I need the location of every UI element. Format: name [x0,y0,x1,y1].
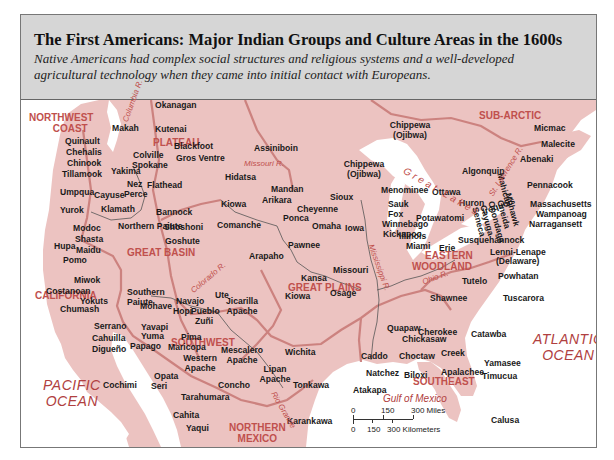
group-label: Abenaki [520,154,553,164]
region-label-line: MEXICO [229,433,286,444]
map-figure: The First Americans: Major Indian Groups… [20,14,597,448]
group-label: Hopi [173,306,192,316]
group-label: Biloxi [404,370,427,380]
group-label: Miami [406,241,430,251]
group-label: Susquehannock [458,235,524,245]
group-label: Kutenai [155,124,187,134]
group-label: Costanoan [46,286,90,296]
group-label: Iowa [345,223,364,233]
group-label: Tillamook [62,169,102,179]
map-canvas: NORTHWEST COAST PLATEAU GREAT BASIN CALI… [21,100,596,447]
group-label: Potawatomi [416,213,464,223]
group-label: Digueño [92,344,126,354]
group-label: Goshute [165,236,200,246]
group-label: Natchez [366,368,399,378]
group-label: Sauk [388,199,409,209]
group-label: Hupa [54,241,75,251]
group-label: Cochimi [103,380,137,390]
group-label: Shoshoni [164,222,203,232]
group-label: Timucua [482,371,517,381]
group-label: Arikara [262,195,292,205]
scale-bar-line [353,419,413,420]
group-label: Atakapa [353,385,386,395]
scale-km-300: 300 Kilometers [387,425,440,434]
group-label: Yaqui [186,423,209,433]
river-label-missouri: Missouri R. [244,159,284,168]
group-label: Narragansett [529,219,582,229]
figure-header: The First Americans: Major Indian Groups… [21,15,596,100]
scale-km-0: 0 [351,425,355,434]
group-label: Yakima [111,166,141,176]
group-label: Chinook [67,158,101,168]
group-label: Seri [151,381,167,391]
group-label: Umpqua [60,187,94,197]
group-label: Pueblo [191,306,220,316]
group-label: Zuñi [195,316,213,326]
group-label: Cahuilla [92,333,125,343]
ocean-label-line: OCEAN [533,347,597,363]
group-label: Apalachee [441,367,484,377]
ocean-label-pacific: PACIFIC OCEAN [43,377,101,409]
group-label: Cahita [173,410,199,420]
region-great-basin: GREAT BASIN [127,247,195,258]
group-label: Micmac [534,123,566,133]
group-label: Hidatsa [225,172,256,182]
group-label: Chehalis [66,147,102,157]
group-label: Gros Ventre [176,153,225,163]
group-label: Chippewa (Ojibwa) [339,159,389,179]
group-label: Yurok [60,205,84,215]
gulf-label: Gulf of Mexico [383,393,447,404]
region-label-line: COAST [29,123,93,134]
group-label: Cayuse [94,190,125,200]
group-label: Modoc [73,223,101,233]
group-label: Kiowa [221,199,246,209]
group-label: Navajo [176,296,204,306]
group-label: Miwok [74,275,100,285]
group-label: Papago [130,341,161,351]
group-label: Kansa [301,273,327,283]
group-label: Quinault [65,136,100,146]
map-subtitle: Native Americans had complex social stru… [34,51,554,83]
group-label: Tonkawa [293,380,329,390]
group-label: Opata [154,371,178,381]
group-label: Kiowa [285,291,310,301]
group-label: Powhatan [498,271,539,281]
group-label: Cherokee [418,327,457,337]
group-label-chippewa-south: Chippewa (Ojibwa) [339,159,389,179]
region-label-line: NORTHWEST [29,112,93,123]
group-label: Calusa [491,415,519,425]
group-label: Makah [112,123,139,133]
scale-tick [372,419,373,423]
group-label: Tutelo [462,276,487,286]
group-label: Perce [124,189,147,199]
group-label: Pomo [63,255,87,265]
ocean-label-line: ATLANTIC [533,331,597,347]
map-title: The First Americans: Major Indian Groups… [34,30,562,50]
group-label: Malecite [541,139,575,149]
group-label: Wichita [285,347,315,357]
region-label-line: NORTHERN [229,422,286,433]
group-label: Comanche [217,220,261,230]
group-label: Shasta [75,234,103,244]
scale-miles-150: 150 [381,406,394,415]
scale-km-150: 150 [367,425,380,434]
group-label: Concho [218,380,250,390]
group-label: Serrano [94,321,126,331]
group-label: Yuma [141,331,164,341]
group-label: Fox [388,209,403,219]
scale-tick [353,415,354,424]
ocean-label-atlantic: ATLANTIC OCEAN [533,331,597,363]
group-label: Wampanoag [536,209,587,219]
group-label: Erie [439,243,455,253]
group-label: Illinois [399,231,426,241]
group-label: Quapaw [387,323,420,333]
group-label: Mandan [271,184,303,194]
ocean-label-line: PACIFIC [43,377,101,393]
group-label: Choctaw [399,351,435,361]
group-label: Shawnee [430,293,467,303]
group-label: Pennacook [527,180,573,190]
group-label: Maricopa [168,342,206,352]
group-label: Jicarilla Apache [222,296,262,316]
group-label: Ponca [283,213,309,223]
scale-tick [413,415,414,419]
